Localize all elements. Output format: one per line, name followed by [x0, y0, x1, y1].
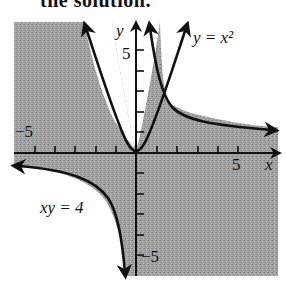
- parabola-label: y = x²: [191, 28, 234, 47]
- y-tick-label-neg5: −5: [141, 247, 159, 266]
- x-tick-label-5: 5: [232, 155, 241, 174]
- y-axis-label: y: [114, 21, 124, 40]
- y-tick-label-5: 5: [122, 44, 131, 63]
- hyperbola-label: xy = 4: [39, 198, 84, 217]
- x-tick-label-neg5: −5: [15, 122, 33, 141]
- inequality-graph: y 5 −5 5 x −5 y = x² xy = 4: [0, 0, 286, 284]
- x-axis-label: x: [264, 155, 273, 174]
